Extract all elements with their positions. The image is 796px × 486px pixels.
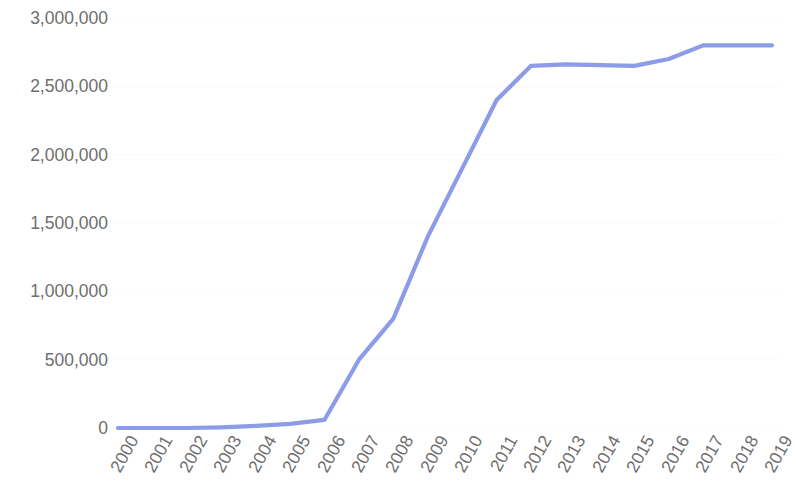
plot-area bbox=[112, 0, 780, 436]
x-tick-label: 2006 bbox=[313, 432, 350, 476]
x-tick-label: 2018 bbox=[726, 432, 763, 476]
gridlines bbox=[112, 18, 780, 428]
x-tick-label: 2011 bbox=[485, 432, 522, 475]
chart-plot-svg bbox=[112, 0, 780, 436]
x-tick-label: 2015 bbox=[622, 432, 659, 476]
x-tick-label: 2016 bbox=[657, 432, 694, 476]
x-tick-label: 2017 bbox=[691, 432, 728, 476]
y-tick-label: 2,000,000 bbox=[0, 144, 108, 165]
y-tick-label: 2,500,000 bbox=[0, 76, 108, 97]
x-tick-label: 2000 bbox=[106, 432, 143, 476]
y-tick-label: 500,000 bbox=[0, 349, 108, 370]
x-tick-label: 2005 bbox=[278, 432, 315, 476]
y-tick-label: 1,000,000 bbox=[0, 281, 108, 302]
y-tick-label: 1,500,000 bbox=[0, 213, 108, 234]
data-series-group bbox=[118, 45, 772, 428]
y-axis: 0500,0001,000,0001,500,0002,000,0002,500… bbox=[0, 0, 108, 486]
x-tick-label: 2019 bbox=[760, 432, 796, 476]
x-tick-label: 2003 bbox=[209, 432, 246, 476]
x-tick-label: 2013 bbox=[554, 432, 591, 476]
x-tick-label: 2007 bbox=[347, 432, 384, 476]
x-tick-label: 2002 bbox=[175, 432, 212, 476]
x-tick-label: 2008 bbox=[381, 432, 418, 476]
x-tick-label: 2010 bbox=[450, 432, 487, 476]
y-tick-label: 3,000,000 bbox=[0, 8, 108, 29]
x-axis: 2000200120022003200420052006200720082009… bbox=[0, 430, 780, 486]
x-tick-label: 2012 bbox=[519, 432, 556, 476]
x-tick-label: 2009 bbox=[416, 432, 453, 476]
data-line bbox=[118, 45, 772, 428]
x-tick-label: 2014 bbox=[588, 432, 625, 476]
x-tick-label: 2004 bbox=[244, 432, 281, 476]
x-tick-label: 2001 bbox=[141, 432, 178, 476]
